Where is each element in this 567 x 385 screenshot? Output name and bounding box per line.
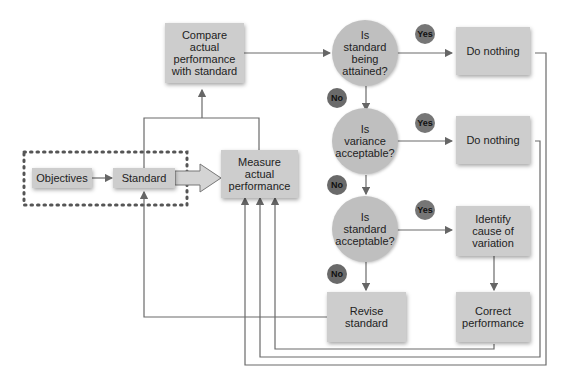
yes-badge-2: Yes: [415, 113, 435, 133]
decision-standard-attained: Is standard being attained?: [332, 20, 398, 86]
measure-performance-box: Measure actual performance: [221, 150, 298, 198]
correct-performance-box: Correct performance: [456, 292, 530, 342]
decision-standard-acceptable: Is standard acceptable?: [332, 196, 398, 262]
no-badge-1: No: [327, 88, 347, 108]
yes-badge-1: Yes: [415, 24, 435, 44]
objectives-box: Objectives: [32, 168, 92, 188]
identify-cause-box: Identify cause of variation: [456, 206, 530, 256]
yes-badge-3: Yes: [415, 200, 435, 220]
no-badge-2: No: [327, 175, 347, 195]
standard-box: Standard: [113, 168, 175, 188]
decision-variance-acceptable: Is variance acceptable?: [332, 108, 398, 174]
no-badge-3: No: [327, 264, 347, 284]
do-nothing-box-1: Do nothing: [456, 27, 530, 75]
compare-performance-box: Compare actual performance with standard: [165, 23, 244, 83]
do-nothing-box-2: Do nothing: [456, 116, 530, 164]
revise-standard-box: Revise standard: [327, 292, 406, 342]
control-process-diagram: Objectives Standard Measure actual perfo…: [0, 0, 567, 385]
